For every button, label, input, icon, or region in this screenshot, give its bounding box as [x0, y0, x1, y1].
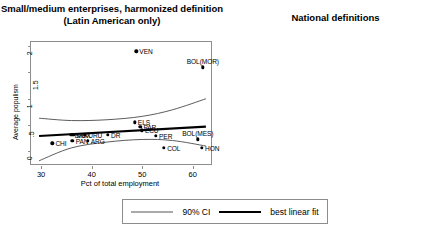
panel-left-x-axis-label: Pct of total employment	[30, 179, 210, 188]
panel-left-plot-area: VENBOL(MOR)ELSPARECUPERDRURUBRAMEXPANARG…	[30, 41, 212, 165]
legend-label-fit: best linear fit	[270, 207, 318, 217]
x-tick-label: 60	[189, 170, 197, 179]
panel-left-y-axis-label: Average populism	[12, 84, 19, 140]
y-tick-label: 0	[26, 157, 33, 161]
x-tick-mark	[142, 166, 143, 169]
y-tick-label: .5	[28, 131, 35, 137]
y-tick-label: 2	[26, 52, 33, 56]
x-tick-mark	[193, 166, 194, 169]
data-point-label: COL	[167, 144, 180, 151]
x-tick-label: 50	[138, 170, 146, 179]
data-point-label: BOL(MES)	[182, 129, 213, 136]
legend-swatch-fit	[219, 209, 261, 215]
data-point-label: HON	[205, 144, 219, 151]
legend-swatch-ci	[131, 209, 173, 215]
y-tick-mark	[28, 72, 31, 73]
left-ci-upper	[39, 99, 206, 121]
legend-label-ci: 90% CI	[182, 207, 210, 217]
data-point-label: BOL(MOR)	[187, 57, 219, 64]
data-point-label: VEN	[139, 48, 152, 55]
y-tick-mark	[28, 99, 31, 100]
data-point-label: ECU	[145, 127, 159, 134]
y-tick-mark	[28, 151, 31, 152]
y-tick-mark	[28, 46, 31, 47]
x-tick-label: 40	[87, 170, 95, 179]
y-tick-mark	[28, 125, 31, 126]
data-point-label: PER	[159, 132, 172, 139]
x-tick-label: 30	[37, 170, 45, 179]
panel-right: National definitions Average populism Pc…	[224, 0, 447, 190]
chart-figure: Small/medium enterprises, harmonized def…	[0, 0, 447, 231]
panel-left-title: Small/medium enterprises, harmonized def…	[0, 3, 224, 26]
panel-right-title: National definitions	[224, 12, 447, 24]
chart-legend: 90% CI best linear fit	[122, 199, 328, 224]
y-tick-label: 1	[26, 104, 33, 108]
left-best-linear-fit	[39, 127, 206, 136]
data-point-label: ARG	[91, 137, 105, 144]
panel-left: Small/medium enterprises, harmonized def…	[0, 0, 224, 190]
left-curves	[31, 42, 213, 166]
data-point-label: DR	[111, 132, 120, 139]
x-tick-mark	[41, 166, 42, 169]
y-tick-label: 1.5	[32, 81, 39, 91]
data-point-label: CHI	[55, 140, 66, 147]
x-tick-mark	[92, 166, 93, 169]
